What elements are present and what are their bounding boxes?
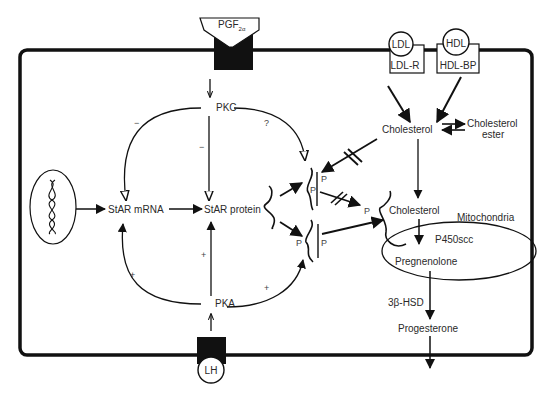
- svg-text:P: P: [296, 238, 302, 248]
- pregnenolone-node: Pregnenolone: [395, 256, 458, 267]
- progesterone-node: Progesterone: [398, 323, 458, 334]
- pkc-phospho-sign: ?: [264, 118, 269, 128]
- hdl-receptor: HDL HDL-BP: [437, 29, 479, 73]
- svg-text:P: P: [321, 238, 327, 248]
- mitochondria: [382, 222, 536, 280]
- dna-icon: [49, 180, 56, 234]
- star-protein-node: StAR protein: [204, 204, 261, 215]
- protein-to-phospho-lower-arrow: [280, 222, 302, 236]
- ldl-to-cholesterol-arrow: [388, 86, 410, 122]
- pkc-node: PKC: [216, 102, 237, 113]
- pkc-to-phospho-arrow: [234, 108, 305, 160]
- svg-text:P: P: [321, 174, 327, 184]
- svg-text:P: P: [310, 185, 316, 195]
- nucleus: [30, 170, 76, 244]
- ldl-r-label: LDL-R: [391, 60, 420, 71]
- cholesterol-cytoplasm-node: Cholesterol: [382, 124, 433, 135]
- mitochondria-label: Mitochondria: [457, 212, 515, 223]
- lh-receptor: LH: [197, 337, 226, 383]
- lh-label: LH: [205, 365, 218, 376]
- star-mitochondrial: P: [364, 191, 406, 246]
- ldl-label: LDL: [392, 39, 411, 50]
- cholesterol-ester-node-line1: Cholesterol: [467, 118, 518, 129]
- cholesterol-to-phospho-arrow: [322, 139, 377, 172]
- steroidogenesis-diagram: PGF2α LDL LDL-R HDL HDL-BP LH PKC PKA St…: [0, 0, 547, 400]
- hdl-to-cholesterol-arrow: [437, 77, 461, 122]
- star-mrna-node: StAR mRNA: [108, 204, 164, 215]
- p450scc-label: P450scc: [435, 234, 473, 245]
- phospho-star-lower: P P: [296, 220, 327, 262]
- hdl-label: HDL: [446, 38, 466, 49]
- cholesterol-mito-node: Cholesterol: [389, 205, 440, 216]
- cell-membrane: [20, 50, 532, 355]
- cholesterol-ester-node-line2: ester: [482, 129, 505, 140]
- hsd-enzyme-label: 3β-HSD: [388, 297, 424, 308]
- hdl-bp-label: HDL-BP: [440, 60, 477, 71]
- pka-to-mrna-arrow: [122, 224, 201, 304]
- phospho-star-upper: P P: [307, 168, 327, 210]
- phospho-lower-to-mito-arrow: [322, 220, 383, 234]
- pkc-mrna-sign: −: [134, 118, 139, 128]
- svg-text:P: P: [364, 206, 370, 216]
- star-protein-glyph: [264, 186, 274, 228]
- pka-protein-sign: +: [201, 250, 206, 260]
- pkc-protein-sign: −: [199, 142, 204, 152]
- ldl-receptor: LDL LDL-R: [389, 32, 424, 73]
- pka-phospho-sign: +: [264, 283, 269, 293]
- pgf2a-receptor: PGF2α: [200, 18, 259, 70]
- pka-mrna-sign: +: [130, 270, 135, 280]
- protein-to-phospho-upper-arrow: [280, 183, 302, 196]
